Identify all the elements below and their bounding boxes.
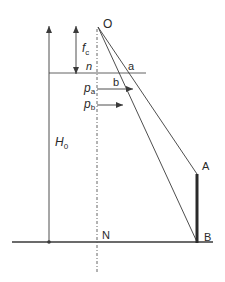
label-h0: H0 <box>55 135 69 151</box>
label-o: O <box>103 17 112 31</box>
label-h0-sub: 0 <box>64 142 69 151</box>
line-o-b <box>98 27 197 242</box>
label-pb-sub: b <box>91 103 96 112</box>
label-b-point: B <box>204 231 211 243</box>
label-pb: pb <box>83 97 96 112</box>
label-n-point: N <box>102 229 110 241</box>
h0-base-dot <box>47 240 51 244</box>
label-pa: pa <box>83 81 96 96</box>
label-n-small: n <box>86 60 92 72</box>
diagram-canvas: O A B N a b n fc H0 pa pb <box>0 0 225 282</box>
label-a-point: A <box>202 160 210 172</box>
label-a-small: a <box>128 60 135 72</box>
line-o-a <box>98 27 197 174</box>
label-h0-main: H <box>55 135 64 149</box>
label-b-small: b <box>113 76 119 88</box>
label-pa-sub: a <box>91 87 96 96</box>
label-fc: fc <box>82 41 89 57</box>
label-fc-sub: c <box>85 48 89 57</box>
